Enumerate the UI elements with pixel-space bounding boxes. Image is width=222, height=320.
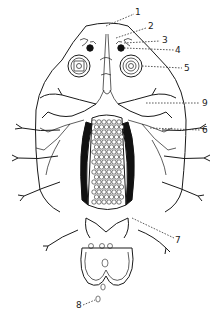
- anatomy-drawing: [0, 0, 222, 320]
- vessels-right: [128, 120, 176, 175]
- label-5: 5: [184, 64, 190, 73]
- label-8: 8: [76, 301, 82, 310]
- eye-left: [87, 45, 93, 51]
- rostrum: [96, 34, 118, 104]
- sucker-left: [68, 55, 90, 77]
- egg-expelled-1: [101, 284, 105, 290]
- antenna-left: [80, 39, 96, 47]
- vessels-left: [36, 120, 84, 175]
- label-3: 3: [162, 36, 168, 45]
- leader-3: [124, 41, 160, 43]
- antenna-right: [116, 39, 132, 47]
- eye-right: [118, 45, 124, 51]
- label-4: 4: [175, 46, 181, 55]
- sucker-right: [120, 55, 142, 77]
- spermatheca: [102, 259, 108, 267]
- egg-expelled-2: [96, 296, 100, 302]
- label-2: 2: [148, 22, 154, 31]
- leader-5: [142, 66, 182, 68]
- posterior-segment: [86, 218, 129, 238]
- label-9: 9: [202, 99, 208, 108]
- label-7: 7: [175, 236, 181, 245]
- label-1: 1: [135, 8, 141, 17]
- anatomy-diagram: 1 2 3 4 5 9 6 7 8: [0, 0, 222, 320]
- leader-4: [124, 48, 174, 50]
- leader-8: [83, 300, 95, 305]
- label-6: 6: [202, 126, 208, 135]
- egg-mass: [88, 115, 126, 210]
- legs-left: [12, 124, 78, 251]
- legs-right: [138, 124, 210, 254]
- leader-7: [132, 218, 174, 238]
- maxilliped-left: [40, 88, 96, 118]
